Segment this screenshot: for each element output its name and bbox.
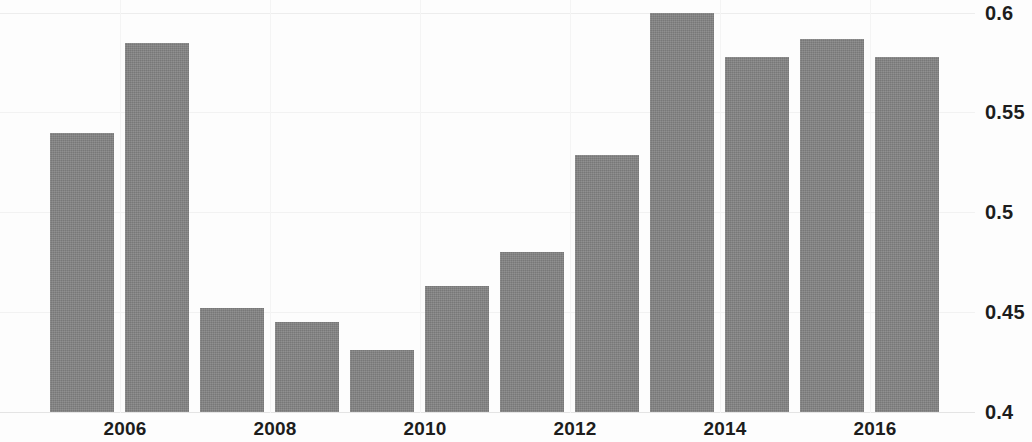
bar: [875, 57, 939, 412]
vgridline-2014: [720, 0, 721, 413]
vgridline-2016: [870, 0, 871, 413]
vgridline-2012: [570, 0, 571, 413]
vgridline-2008: [270, 0, 271, 413]
x-tick-label: 2008: [253, 418, 296, 440]
x-tick-label: 2016: [853, 418, 896, 440]
x-tick-label: 2012: [553, 418, 596, 440]
bar: [125, 43, 189, 412]
vgridline-2006: [120, 0, 121, 413]
bar: [50, 133, 114, 412]
x-tick-label: 2010: [403, 418, 446, 440]
y-tick-label: 0.4: [985, 401, 1013, 424]
bar: [725, 57, 789, 412]
bar-chart: 0.6 0.55 0.5 0.45 0.4 2006 2008 2010 201…: [0, 0, 1032, 442]
x-tick-label: 2014: [703, 418, 746, 440]
bar: [275, 322, 339, 412]
bar: [425, 286, 489, 412]
bar: [650, 13, 714, 412]
x-tick-label: 2006: [103, 418, 146, 440]
bar: [800, 39, 864, 412]
gridline-0-6: [0, 13, 975, 14]
bar: [350, 350, 414, 412]
y-tick-label: 0.6: [985, 2, 1013, 25]
bar: [200, 308, 264, 412]
gridline-0-4: [0, 412, 975, 413]
bar: [500, 252, 564, 412]
y-tick-label: 0.5: [985, 201, 1013, 224]
plot-area: [0, 0, 975, 442]
y-tick-label: 0.45: [985, 301, 1025, 324]
vgridline-2010: [420, 0, 421, 413]
y-tick-label: 0.55: [985, 101, 1025, 124]
bar: [575, 155, 639, 412]
